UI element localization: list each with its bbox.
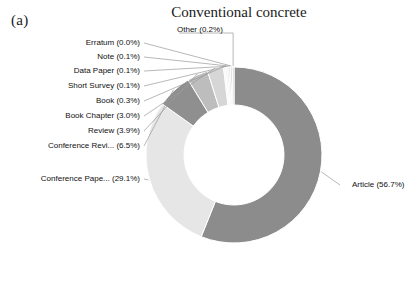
slice-label: Conference Revi... (6.5%) — [0, 141, 140, 151]
leader-line — [144, 179, 149, 180]
leader-line — [144, 57, 230, 66]
slice-label: Note (0.1%) — [0, 52, 140, 62]
slice-label: Short Survey (0.1%) — [0, 81, 140, 91]
slice-label: Book Chapter (3.0%) — [0, 111, 140, 121]
leader-line — [179, 33, 233, 66]
slice-label: Conference Pape... (29.1%) — [0, 174, 140, 184]
slice-label: Book (0.3%) — [0, 96, 140, 106]
slice-label: Erratum (0.0%) — [0, 38, 140, 48]
pie-slice — [146, 104, 215, 237]
slice-label: Data Paper (0.1%) — [0, 66, 140, 76]
slice-label: Other (0.2%) — [177, 25, 223, 35]
leader-line — [321, 172, 340, 185]
pie-slice — [232, 67, 234, 105]
leader-line — [144, 43, 231, 66]
pie-slice-group — [146, 67, 322, 243]
slice-label: Review (3.9%) — [0, 126, 140, 136]
slice-label: Article (56.7%) — [352, 180, 404, 190]
